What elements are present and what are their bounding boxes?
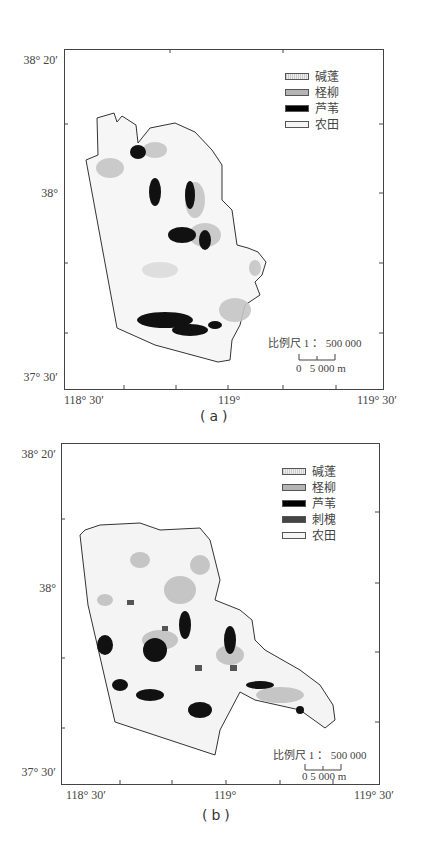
swatch-icon	[282, 532, 306, 539]
lat-label-mid: 38°	[0, 581, 56, 596]
lat-label-bottom: 37° 30′	[0, 765, 56, 780]
legend-item: 碱蓬	[285, 68, 339, 84]
legend-item: 芦苇	[282, 495, 336, 511]
lat-label-bottom: 37° 30′	[2, 370, 58, 385]
legend-item: 农田	[282, 527, 336, 543]
scale-ratio: 比例尺 1 ： 500 000	[273, 746, 367, 762]
scale-bar-label: 0 5 000 m	[302, 770, 346, 782]
lon-label-left: 118° 30′	[64, 393, 104, 408]
map-panel-a: 38° 20′ 38° 37° 30′ 118° 30′ 119° 119° 3…	[0, 0, 422, 430]
legend-item: 芦苇	[285, 100, 339, 116]
swatch-icon	[282, 468, 306, 475]
lon-label-left: 118° 30′	[66, 788, 106, 803]
map-region-a	[0, 0, 422, 430]
lat-label-top: 38° 20′	[2, 53, 58, 68]
lon-label-right: 119° 30′	[354, 788, 394, 803]
legend-item: 刺槐	[282, 511, 336, 527]
lon-label-mid: 119°	[218, 393, 240, 408]
legend-item: 柽柳	[282, 479, 336, 495]
swatch-icon	[282, 500, 306, 507]
legend-item: 碱蓬	[282, 463, 336, 479]
legend-item: 农田	[285, 116, 339, 132]
map-panel-b: 38° 20′ 38° 37° 30′ 118° 30′ 119° 119° 3…	[0, 430, 422, 863]
lon-label-right: 119° 30′	[357, 393, 397, 408]
swatch-icon	[282, 484, 306, 491]
caption-a: (a)	[200, 408, 232, 424]
lon-label-mid: 119°	[214, 788, 236, 803]
legend-b: 碱蓬 柽柳 芦苇 刺槐 农田	[282, 463, 336, 543]
lat-label-mid: 38°	[2, 186, 58, 201]
swatch-icon	[285, 105, 309, 112]
lat-label-top: 38° 20′	[0, 447, 56, 462]
swatch-icon	[282, 516, 306, 523]
swatch-icon	[285, 73, 309, 80]
scale-bar-icon	[298, 354, 338, 362]
legend-a: 碱蓬 柽柳 芦苇 农田	[285, 68, 339, 132]
scale-ratio: 比例尺 1 ： 500 000	[268, 334, 362, 350]
scale-bar-label: 0 5 000 m	[296, 362, 346, 374]
caption-b: (b)	[202, 807, 234, 823]
legend-item: 柽柳	[285, 84, 339, 100]
swatch-icon	[285, 89, 309, 96]
swatch-icon	[285, 121, 309, 128]
